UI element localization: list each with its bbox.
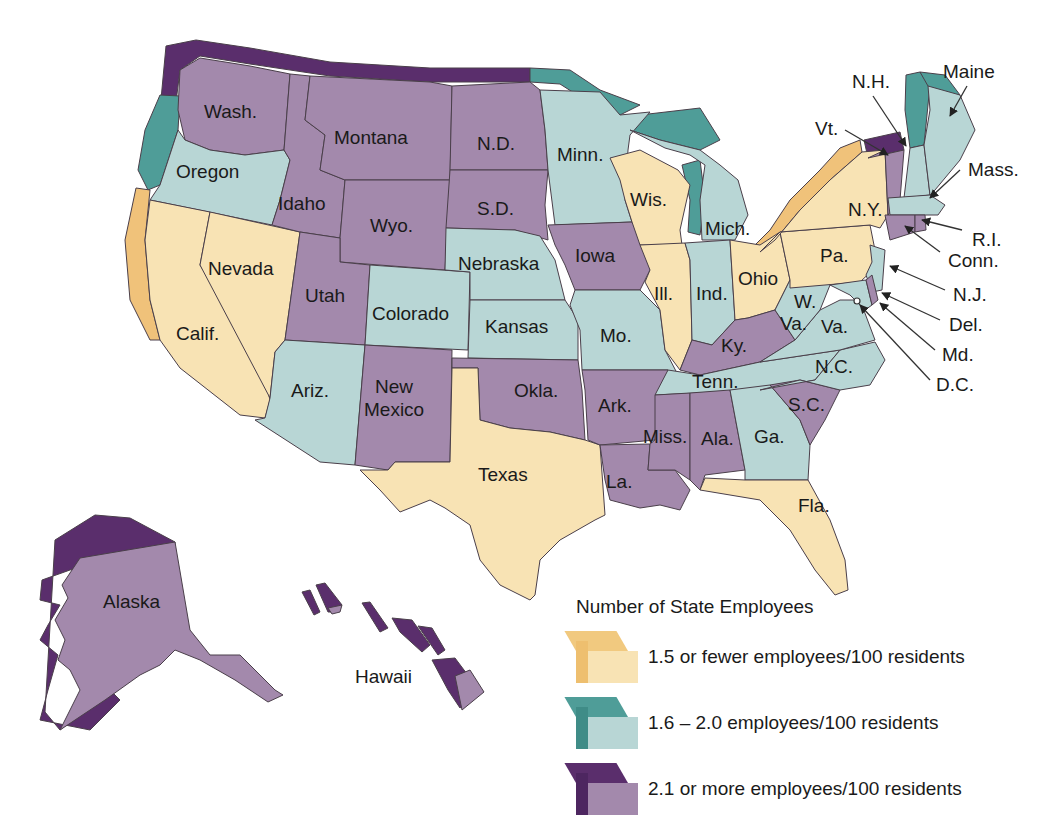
label-minn: Minn.: [557, 144, 603, 165]
label-texas: Texas: [478, 464, 528, 485]
state-conn[interactable]: [885, 215, 915, 240]
arrow-del: [882, 293, 940, 320]
label-sc: S.C.: [788, 394, 825, 415]
legend-title: Number of State Employees: [576, 596, 1036, 618]
label-vt: Vt.: [815, 118, 838, 139]
state-mass[interactable]: [888, 195, 945, 215]
label-nd: N.D.: [477, 133, 515, 154]
label-wis: Wis.: [630, 189, 667, 210]
label-nevada: Nevada: [208, 258, 274, 279]
state-nd[interactable]: [450, 82, 548, 170]
label-wva: Va.: [780, 313, 807, 334]
label-del: Del.: [949, 314, 983, 335]
label-md: Md.: [942, 344, 974, 365]
label-calif: Calif.: [176, 323, 219, 344]
label-wyo: Wyo.: [370, 215, 413, 236]
label-iowa: Iowa: [575, 245, 616, 266]
state-ri[interactable]: [915, 215, 926, 232]
legend-swatch-low: [576, 631, 638, 683]
legend-label-high: 2.1 or more employees/100 residents: [648, 778, 962, 800]
label-w: W.: [794, 291, 816, 312]
arrow-ri: [922, 220, 962, 230]
label-tenn: Tenn.: [692, 371, 738, 392]
state-alaska[interactable]: [55, 542, 283, 730]
legend-swatch-mid: [576, 697, 638, 749]
arrow-nj: [890, 266, 945, 290]
legend-label-mid: 1.6 – 2.0 employees/100 residents: [648, 712, 938, 734]
dc-marker[interactable]: [854, 298, 860, 304]
label-okla: Okla.: [514, 380, 558, 401]
label-nh: N.H.: [852, 71, 890, 92]
label-ind: Ind.: [696, 283, 728, 304]
legend: Number of State Employees 1.5 or fewer e…: [576, 596, 1036, 822]
label-ohio: Ohio: [738, 268, 778, 289]
label-montana: Montana: [334, 127, 408, 148]
legend-label-low: 1.5 or fewer employees/100 residents: [648, 646, 965, 668]
label-ri: R.I.: [972, 229, 1002, 250]
label-nj: N.J.: [953, 284, 987, 305]
label-hawaii: Hawaii: [355, 666, 412, 687]
label-idaho: Idaho: [278, 193, 326, 214]
label-ky: Ky.: [721, 335, 747, 356]
state-hawaii[interactable]: [302, 583, 484, 710]
label-dc: D.C.: [936, 374, 974, 395]
label-kansas: Kansas: [485, 316, 548, 337]
label-miss: Miss.: [643, 426, 687, 447]
label-ala: Ala.: [701, 428, 734, 449]
label-conn: Conn.: [948, 250, 999, 271]
label-maine: Maine: [943, 61, 995, 82]
label-wash: Wash.: [204, 101, 257, 122]
label-new: New: [375, 376, 413, 397]
legend-item-low: 1.5 or fewer employees/100 residents: [576, 624, 1036, 690]
label-ny: N.Y.: [848, 199, 883, 220]
label-ga: Ga.: [754, 426, 785, 447]
label-ill: Ill.: [654, 283, 673, 304]
label-mass: Mass.: [968, 159, 1019, 180]
label-nc: N.C.: [815, 356, 853, 377]
legend-swatch-high: [576, 763, 638, 815]
legend-item-high: 2.1 or more employees/100 residents: [576, 756, 1036, 822]
label-va: Va.: [821, 316, 848, 337]
label-fla: Fla.: [798, 495, 830, 516]
label-ark: Ark.: [598, 395, 632, 416]
label-la: La.: [606, 471, 632, 492]
label-nebraska: Nebraska: [458, 253, 540, 274]
label-pa: Pa.: [820, 245, 849, 266]
label-mexico: Mexico: [364, 399, 424, 420]
label-oregon: Oregon: [176, 161, 239, 182]
arrow-md: [880, 303, 935, 350]
label-mich: Mich.: [705, 218, 750, 239]
label-alaska: Alaska: [103, 591, 160, 612]
label-mo: Mo.: [600, 325, 632, 346]
label-sd: S.D.: [477, 198, 514, 219]
label-colorado: Colorado: [372, 303, 449, 324]
legend-item-mid: 1.6 – 2.0 employees/100 residents: [576, 690, 1036, 756]
label-utah: Utah: [305, 285, 345, 306]
label-ariz: Ariz.: [291, 380, 329, 401]
